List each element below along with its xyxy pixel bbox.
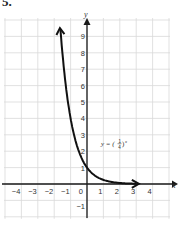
curve-path (60, 29, 136, 184)
y-tick-label: 7 (81, 65, 85, 74)
x-tick-label: −2 (45, 187, 54, 196)
label-denominator: 4 (118, 145, 121, 150)
y-tick-label: 5 (81, 98, 85, 107)
x-axis-label: x (171, 181, 176, 190)
y-tick-label: 6 (81, 82, 85, 91)
function-curve (56, 28, 138, 188)
y-tick-label: 2 (81, 147, 85, 156)
exponential-graph: xy −4−3−2−101234−1123456789 y = (14)x (0, 0, 178, 225)
x-tick-label: 1 (98, 187, 102, 196)
y-axis-label: y (83, 10, 88, 19)
y-tick-label: 9 (81, 32, 85, 41)
y-tick-label: 4 (81, 114, 85, 123)
x-tick-label: −4 (12, 187, 21, 196)
label-lhs: y = ( (100, 140, 115, 148)
x-tick-label: 4 (147, 187, 151, 196)
function-label: y = (14)x (100, 139, 127, 150)
x-tick-label: 3 (131, 187, 135, 196)
x-tick-label: 0 (79, 187, 83, 196)
x-tick-label: −1 (61, 187, 70, 196)
y-tick-label: 3 (81, 131, 85, 140)
x-tick-label: 2 (115, 187, 119, 196)
x-tick-label: −3 (28, 187, 37, 196)
y-axis-arrow-icon (84, 18, 91, 25)
label-exponent: x (124, 139, 127, 144)
y-tick-label: −1 (76, 202, 85, 211)
y-tick-label: 8 (81, 49, 85, 58)
